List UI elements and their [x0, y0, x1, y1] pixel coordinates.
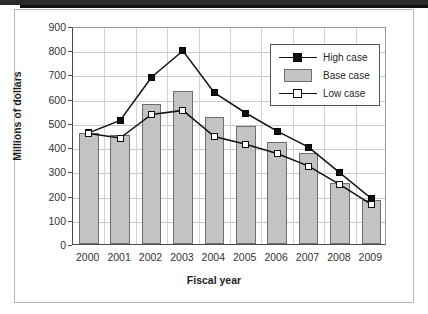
line-path [89, 110, 372, 204]
bar-swatch-icon [284, 69, 312, 82]
open-square-marker-icon [293, 89, 302, 98]
data-point-low-case [242, 141, 249, 148]
data-point-high-case [211, 89, 218, 96]
data-point-low-case [85, 130, 92, 137]
data-point-high-case [305, 144, 312, 151]
data-point-high-case [274, 128, 281, 135]
data-point-low-case [148, 111, 155, 118]
data-point-high-case [242, 110, 249, 117]
scan-edge-band-inner [20, 5, 428, 8]
data-point-high-case [336, 169, 343, 176]
data-point-low-case [211, 133, 218, 140]
legend-label: Base case [323, 70, 370, 81]
data-point-low-case [274, 150, 281, 157]
x-axis-title: Fiscal year [0, 274, 428, 286]
data-point-low-case [117, 135, 124, 142]
legend-label: High case [323, 52, 367, 63]
legend-label: Low case [323, 88, 365, 99]
legend-entry-low-case: Low case [271, 85, 381, 103]
legend-entry-high-case: High case [271, 49, 381, 67]
data-point-high-case [148, 74, 155, 81]
data-point-low-case [179, 107, 186, 114]
data-point-low-case [336, 181, 343, 188]
legend-entry-base-case: Base case [271, 67, 381, 85]
data-point-high-case [117, 117, 124, 124]
chart-figure: Millions of dollars Fiscal year 01002003… [0, 0, 428, 314]
data-point-low-case [305, 163, 312, 170]
filled-square-marker-icon [293, 53, 302, 62]
data-point-low-case [368, 201, 375, 208]
chart-legend: High case Base case Low case [270, 44, 380, 106]
y-axis-title: Millions of dollars [11, 36, 23, 196]
data-point-high-case [179, 47, 186, 54]
plot-area: High case Base case Low case [72, 27, 386, 245]
